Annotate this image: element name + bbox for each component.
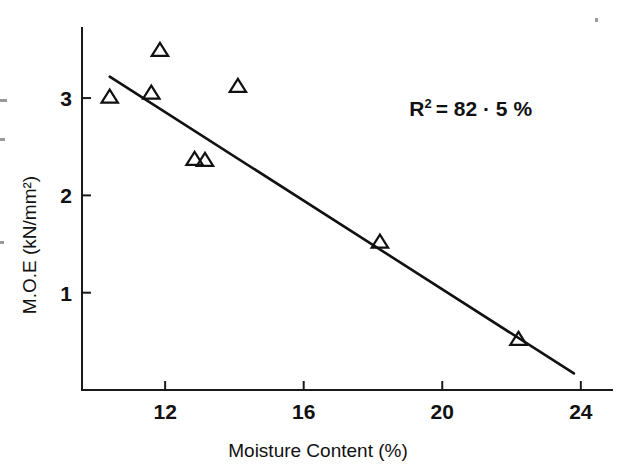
chart-figure: 12162024 123 Moisture Content (%) M.O.E …	[0, 0, 637, 471]
y-axis-title: M.O.E (kN/mm²)	[19, 176, 40, 314]
y-tick-label: 3	[60, 87, 72, 110]
x-tick-label: 20	[431, 400, 454, 423]
y-tick-label: 2	[60, 184, 72, 207]
x-tick-label: 12	[153, 400, 176, 423]
plot-background	[0, 0, 637, 471]
x-axis-title: Moisture Content (%)	[228, 440, 408, 461]
x-tick-label: 16	[292, 400, 315, 423]
r-squared-value: = 82 · 5 %	[436, 97, 533, 120]
y-tick-label: 1	[60, 282, 72, 305]
x-tick-label: 24	[569, 400, 593, 423]
scatter-plot: 12162024 123 Moisture Content (%) M.O.E …	[0, 0, 637, 471]
r-squared-exponent: 2	[425, 96, 432, 111]
r-squared-prefix: R	[409, 97, 424, 120]
